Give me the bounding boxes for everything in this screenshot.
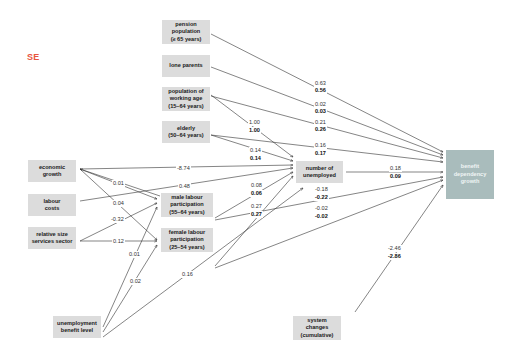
coef-growth-female: 0.04 xyxy=(112,200,125,207)
coef-benefit-male: 0.01 xyxy=(128,251,141,258)
node-system-changes: system changes (cumulative) xyxy=(293,316,341,340)
coef-elderly-bold: 0.17 xyxy=(314,150,327,157)
coef-male-unemp-bold: 0.06 xyxy=(250,190,263,197)
coef-elderly-unemp: 0.14 xyxy=(249,147,262,154)
coef-elderly: 0.16 xyxy=(314,142,327,149)
node-services-sector: relative size services sector xyxy=(28,227,76,249)
coef-male-out-bold: -0.22 xyxy=(314,194,329,201)
coef-elderly-unemp-bold: 0.14 xyxy=(249,155,262,162)
coef-female-out: -0.02 xyxy=(314,205,329,212)
coef-pension-bold: 0.56 xyxy=(314,87,327,94)
coef-system-out-bold: -2.86 xyxy=(387,253,402,260)
node-labour-costs: labour costs xyxy=(28,194,76,216)
coef-growth-male: 0.01 xyxy=(112,180,125,187)
node-economic-growth: economic growth xyxy=(28,160,76,182)
node-working-age: population of working age (15–64 years) xyxy=(162,87,210,111)
coef-female-unemp-bold: 0.27 xyxy=(250,211,263,218)
coef-working-bold: 0.26 xyxy=(314,126,327,133)
coef-pension: 0.63 xyxy=(314,80,327,87)
path-diagram: SE pension population (≥ 65 years) lone … xyxy=(0,0,514,359)
edge-lines xyxy=(0,0,514,359)
coef-system-out: -2.46 xyxy=(387,245,402,252)
coef-working-unemp: 1.00 xyxy=(248,119,261,126)
node-benefit-dependency-growth: benefit dependency growth xyxy=(446,150,494,199)
coef-male-unemp: 0.08 xyxy=(250,182,263,189)
coef-unemp-out-bold: 0.09 xyxy=(389,173,402,180)
coef-female-out-bold: -0.02 xyxy=(314,213,329,220)
coef-services-male: -0.32 xyxy=(110,216,125,223)
diagram-title: SE xyxy=(27,52,40,62)
coef-female-unemp: 0.27 xyxy=(250,203,263,210)
coef-lone-bold: 0.03 xyxy=(314,108,327,115)
node-elderly: elderly (50–64 years) xyxy=(162,121,210,143)
coef-services-female: 0.12 xyxy=(112,238,125,245)
node-unemployment-benefit-level: unemployment benefit level xyxy=(53,316,101,338)
node-pension-population: pension population (≥ 65 years) xyxy=(162,20,210,44)
coef-growth-unemp: -8.74 xyxy=(176,165,191,172)
coef-working-unemp-bold: 1.00 xyxy=(248,127,261,134)
coef-lone: 0.02 xyxy=(314,101,327,108)
node-male-participation: male labour participation (55–64 years) xyxy=(161,193,213,217)
coef-male-out: -0.18 xyxy=(314,186,329,193)
coef-benefit-female: 0.02 xyxy=(129,278,142,285)
coef-working: 0.21 xyxy=(314,119,327,126)
coef-unemp-out: 0.18 xyxy=(389,165,402,172)
node-number-unemployed: number of unemployed xyxy=(296,161,343,183)
node-female-participation: female labour participation (25–54 years… xyxy=(161,228,213,252)
node-lone-parents: lone parents xyxy=(162,55,210,77)
coef-benefit-unemp: 0.16 xyxy=(181,271,194,278)
coef-labour-unemp: 0.48 xyxy=(178,183,191,190)
